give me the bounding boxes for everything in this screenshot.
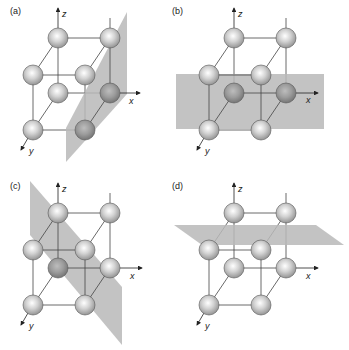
z-axis-label: z	[237, 184, 243, 194]
y-axis	[197, 313, 204, 325]
y-axis-label: y	[28, 321, 34, 331]
x-axis-label: x	[128, 96, 134, 106]
z-axis-label: z	[61, 9, 67, 19]
z-axis-label: z	[237, 9, 243, 19]
x-axis-label: x	[305, 95, 311, 105]
panel-label-a: (a)	[10, 6, 21, 16]
y-axis-label: y	[204, 321, 210, 331]
y-axis-label: y	[204, 146, 210, 156]
panel-d: (d) z x y	[172, 181, 344, 331]
figure: (a) z x y	[0, 0, 349, 350]
x-axis-label: x	[129, 271, 135, 281]
panel-label-d: (d)	[172, 181, 183, 191]
panel-a: (a) z x y	[10, 6, 140, 162]
panel-label-c: (c)	[10, 181, 21, 191]
y-axis	[197, 138, 204, 150]
z-axis-label: z	[61, 184, 67, 194]
y-axis-label: y	[28, 146, 34, 156]
atoms	[199, 203, 296, 315]
panel-label-b: (b)	[172, 6, 183, 16]
panel-c: (c) z x y	[10, 181, 142, 345]
x-axis-label: x	[305, 271, 311, 281]
crystal-plane	[176, 74, 324, 129]
y-axis	[21, 313, 28, 325]
panel-b: (b) z x y	[172, 6, 324, 156]
y-axis	[21, 138, 28, 150]
